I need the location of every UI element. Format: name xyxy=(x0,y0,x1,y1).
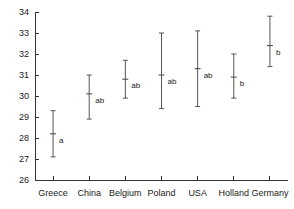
error-bar-group: ab xyxy=(86,75,104,119)
y-tick-label: 26 xyxy=(19,175,29,185)
significance-group-label: b xyxy=(276,48,281,57)
y-tick-label: 32 xyxy=(19,49,29,59)
error-bar-plot: 262728293031323334GreeceChinaBelgiumPola… xyxy=(0,0,294,209)
error-bar-group: ab xyxy=(195,31,213,107)
error-bar-group: b xyxy=(231,54,245,98)
significance-group-label: b xyxy=(240,79,245,88)
y-tick-label: 29 xyxy=(19,112,29,122)
x-tick-label: Holland xyxy=(219,188,250,198)
y-tick-label: 31 xyxy=(19,70,29,80)
x-tick-label: Germany xyxy=(251,188,289,198)
x-tick-label: Greece xyxy=(38,188,68,198)
x-tick-label: Poland xyxy=(147,188,175,198)
significance-group-label: ab xyxy=(204,71,213,80)
y-tick-label: 30 xyxy=(19,91,29,101)
significance-group-label: a xyxy=(59,136,64,145)
significance-group-label: ab xyxy=(95,96,104,105)
chart-figure: 262728293031323334GreeceChinaBelgiumPola… xyxy=(0,0,294,209)
error-bar-group: ab xyxy=(159,33,177,109)
x-tick-label: China xyxy=(77,188,101,198)
significance-group-label: ab xyxy=(168,77,177,86)
y-tick-label: 27 xyxy=(19,154,29,164)
y-tick-label: 33 xyxy=(19,28,29,38)
error-bar-group: ab xyxy=(122,60,140,98)
x-tick-label: Belgium xyxy=(109,188,142,198)
y-tick-label: 28 xyxy=(19,133,29,143)
error-bar-group: b xyxy=(267,16,281,66)
error-bar-group: a xyxy=(50,111,64,157)
y-tick-label: 34 xyxy=(19,7,29,17)
significance-group-label: ab xyxy=(131,81,140,90)
x-tick-label: USA xyxy=(188,188,207,198)
